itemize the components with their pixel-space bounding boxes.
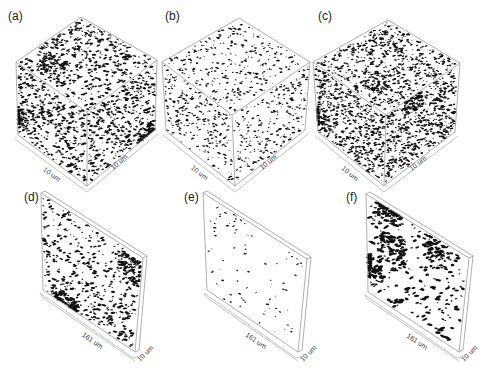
particle: [368, 86, 370, 87]
particle: [111, 291, 115, 293]
panel-label-f: (f): [346, 190, 357, 204]
particle: [365, 68, 367, 69]
particle: [424, 245, 427, 247]
particle: [147, 84, 150, 86]
particle: [111, 141, 114, 143]
panel-label-b: (b): [165, 9, 180, 23]
particle: [18, 93, 20, 94]
particle: [221, 29, 225, 31]
particle: [433, 133, 435, 134]
particle: [88, 240, 92, 242]
particle: [427, 248, 433, 251]
particle: [30, 69, 34, 71]
particle: [85, 33, 87, 34]
particle: [359, 147, 361, 148]
particle: [89, 50, 92, 52]
particle: [268, 140, 271, 141]
particle: [107, 63, 109, 64]
particle: [433, 76, 436, 77]
particle: [226, 225, 229, 227]
particle: [21, 83, 23, 84]
particle: [270, 76, 271, 77]
particle: [450, 90, 453, 91]
particle: [92, 132, 94, 133]
particle: [114, 50, 117, 52]
particle: [417, 121, 420, 123]
particle: [82, 169, 86, 171]
particle: [217, 106, 219, 107]
particle: [142, 63, 145, 64]
particle: [454, 90, 456, 91]
particle: [153, 85, 156, 86]
particle: [21, 111, 23, 112]
particle: [323, 79, 325, 80]
particle: [81, 88, 83, 89]
particle: [370, 48, 373, 50]
particle: [447, 68, 449, 69]
particle: [445, 116, 448, 118]
particle: [290, 331, 292, 332]
particle: [374, 118, 376, 119]
particle: [233, 103, 235, 104]
particle: [32, 106, 36, 108]
particle: [393, 158, 395, 159]
panel-label-a: (a): [8, 9, 23, 23]
particle: [67, 219, 71, 221]
particle: [206, 83, 209, 84]
particle: [79, 64, 81, 65]
panel-label-e: (e): [184, 190, 199, 204]
panel-label-c: (c): [318, 9, 332, 23]
particle: [197, 106, 198, 107]
particle: [64, 48, 66, 49]
particle: [110, 107, 112, 108]
particle: [454, 289, 459, 291]
panel-label-d: (d): [24, 190, 39, 204]
particle: [196, 56, 198, 57]
particle: [131, 86, 134, 88]
particle: [446, 136, 447, 137]
particle: [282, 282, 285, 284]
particle: [393, 67, 397, 69]
particle: [81, 62, 83, 63]
particle: [417, 106, 418, 107]
particle: [374, 207, 378, 208]
micrograph-figure: (a) 10 um 10 um (b) 10 um 10 um (c) 10 u…: [0, 0, 494, 369]
particle: [81, 54, 83, 55]
